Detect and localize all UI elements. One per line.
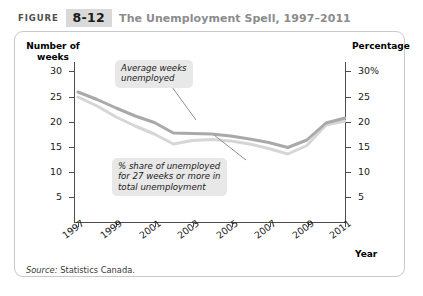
figure-number-badge: 8-12 <box>66 9 112 27</box>
callout-average-weeks: Average weeks unemployed <box>115 60 193 88</box>
source-note: Source: Statistics Canada. <box>26 265 135 275</box>
y-tick-right-30 <box>346 71 351 72</box>
y-tick-label-right-30: 30% <box>358 65 379 76</box>
series-line-1 <box>78 97 345 154</box>
figure-title: The Unemployment Spell, 1997–2011 <box>119 12 351 25</box>
figure-header: FIGURE 8-12 The Unemployment Spell, 1997… <box>18 9 351 27</box>
y-tick-right-5 <box>346 197 351 198</box>
figure-page: FIGURE 8-12 The Unemployment Spell, 1997… <box>0 0 423 296</box>
y-tick-right-15 <box>346 147 351 148</box>
source-label: Source: <box>26 265 57 275</box>
plot-area: 30 25 20 15 10 5 30% 25 20 15 10 5 1997 … <box>74 62 346 222</box>
y-tick-label-right-10: 10 <box>358 166 370 177</box>
y-tick-label-right-15: 15 <box>358 141 370 152</box>
y-tick-label-left-15: 15 <box>32 141 62 152</box>
y-tick-label-right-20: 20 <box>358 116 370 127</box>
y-tick-label-right-5: 5 <box>358 191 364 202</box>
y-tick-label-left-5: 5 <box>32 191 62 202</box>
y-tick-right-25 <box>346 97 351 98</box>
y-tick-label-left-30: 30 <box>32 65 62 76</box>
x-axis-title: Year <box>355 249 377 259</box>
y-tick-label-left-10: 10 <box>32 166 62 177</box>
y-axis-title-left: Number of weeks <box>22 41 84 63</box>
y-tick-label-left-20: 20 <box>32 116 62 127</box>
data-lines <box>74 62 346 222</box>
callout-share-27-weeks: % share of unemployed for 27 weeks or mo… <box>112 158 227 196</box>
y-axis-title-right: Percentage <box>352 41 410 51</box>
y-tick-right-10 <box>346 172 351 173</box>
y-tick-label-left-25: 25 <box>32 91 62 102</box>
y-tick-right-20 <box>346 122 351 123</box>
figure-label: FIGURE <box>18 13 59 23</box>
y-tick-label-right-25: 25 <box>358 91 370 102</box>
source-text: Statistics Canada. <box>60 265 135 275</box>
